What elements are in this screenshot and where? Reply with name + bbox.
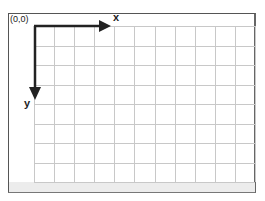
y-axis-arrowhead-icon — [29, 87, 41, 100]
origin-label: (0,0) — [10, 14, 29, 24]
y-axis-label: y — [24, 97, 30, 109]
grid — [0, 0, 265, 201]
x-axis-arrowhead-icon — [99, 20, 111, 32]
x-axis-label: x — [113, 11, 119, 23]
